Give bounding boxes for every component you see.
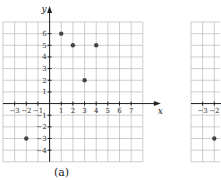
- data-point: [82, 78, 86, 82]
- y-tick-label: 3: [42, 65, 46, 73]
- data-point: [59, 31, 63, 35]
- coordinate-plots: xy654321−1−2−3−4(a)−3−2−11234567−3−2: [0, 0, 221, 180]
- x-tick-label: −1: [33, 107, 43, 115]
- x-tick-label: −3: [9, 107, 19, 115]
- y-tick-label: 4: [42, 53, 47, 61]
- y-tick-label: −4: [36, 147, 47, 155]
- y-axis-arrow-icon: [47, 6, 52, 13]
- x-axis-label: x: [158, 106, 163, 116]
- y-tick-label: −3: [36, 135, 46, 143]
- data-point: [71, 43, 75, 47]
- x-tick-label: −2: [209, 107, 219, 115]
- y-tick-label: −2: [36, 123, 46, 131]
- x-tick-label: 5: [106, 107, 110, 115]
- plot-caption: (a): [54, 166, 69, 179]
- y-axis-label: y: [41, 4, 48, 14]
- x-tick-label: −3: [197, 107, 207, 115]
- x-tick-label: 4: [94, 107, 99, 115]
- y-tick-label: 1: [42, 88, 46, 96]
- data-point: [94, 43, 98, 47]
- x-tick-label: 1: [59, 107, 63, 115]
- x-tick-label: 6: [117, 107, 122, 115]
- x-tick-label: 7: [129, 107, 133, 115]
- data-point: [24, 136, 28, 140]
- y-tick-label: 6: [42, 30, 47, 38]
- x-tick-label: 3: [82, 107, 86, 115]
- y-tick-label: 2: [42, 77, 46, 85]
- x-tick-label: 2: [71, 107, 75, 115]
- data-point: [212, 136, 216, 140]
- y-tick-label: 5: [42, 42, 46, 50]
- x-tick-label: −2: [21, 107, 31, 115]
